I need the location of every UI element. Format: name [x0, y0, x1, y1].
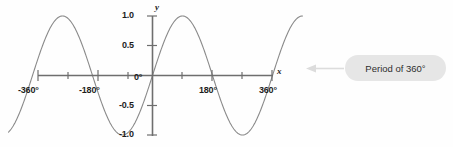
y-tick-label-1: 1.0 [122, 10, 134, 20]
x-tick-label-360: 360° [259, 85, 277, 95]
x-tick-label-zero: 0° [134, 72, 142, 82]
x-tick-label-180: 180° [199, 85, 217, 95]
left-arrow-icon [306, 65, 344, 73]
y-tick-label-0-5: 0.5 [122, 40, 134, 50]
period-callout: Period of 360° [345, 55, 446, 81]
x-tick-label-minus-360: -360° [18, 85, 39, 95]
period-callout-label: Period of 360° [365, 63, 425, 74]
y-axis-label: y [155, 2, 159, 12]
sine-graph-figure: -360° -180° 0° 180° 360° 1.0 0.5 -0.5 -1… [0, 0, 453, 147]
x-tick-label-minus-180: -180° [79, 85, 100, 95]
y-tick-label-minus-0-5: -0.5 [119, 100, 134, 110]
x-axis-label: x [277, 66, 282, 76]
y-tick-label-minus-1: -1.0 [119, 129, 134, 139]
